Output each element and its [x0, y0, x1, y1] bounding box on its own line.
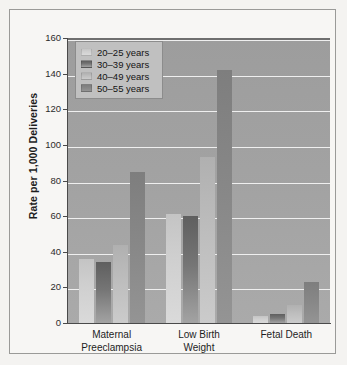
- y-tick-mark: [63, 252, 67, 253]
- y-tick-label: 160: [31, 32, 61, 43]
- chart-figure: Rate per 1,000 Deliveries 02040608010012…: [0, 0, 347, 365]
- y-tick-label: 40: [31, 246, 61, 257]
- chart-legend: 20–25 years30–39 years40–49 years50–55 y…: [75, 41, 163, 99]
- y-tick-label: 0: [31, 317, 61, 328]
- y-tick-mark: [63, 323, 67, 324]
- legend-label: 20–25 years: [97, 47, 149, 58]
- y-tick-mark: [63, 38, 67, 39]
- legend-item: 20–25 years: [81, 46, 157, 58]
- bar: [79, 259, 94, 323]
- legend-item: 30–39 years: [81, 58, 157, 70]
- bar: [183, 216, 198, 323]
- bar: [270, 314, 285, 323]
- legend-item: 40–49 years: [81, 70, 157, 82]
- bar: [130, 172, 145, 323]
- y-tick-mark: [63, 216, 67, 217]
- y-tick-label: 20: [31, 281, 61, 292]
- y-tick-label: 140: [31, 68, 61, 79]
- x-tick-label-line: Weight: [144, 341, 254, 354]
- y-tick-mark: [63, 145, 67, 146]
- bar: [287, 305, 302, 323]
- y-tick-label: 120: [31, 103, 61, 114]
- y-tick-mark: [63, 181, 67, 182]
- figure-frame: Rate per 1,000 Deliveries 02040608010012…: [9, 9, 336, 354]
- bar-group: [243, 38, 330, 323]
- legend-label: 50–55 years: [97, 83, 149, 94]
- y-tick-label: 80: [31, 175, 61, 186]
- legend-label: 40–49 years: [97, 71, 149, 82]
- legend-label: 30–39 years: [97, 59, 149, 70]
- bar: [200, 157, 215, 323]
- x-tick-label-line: Fetal Death: [231, 328, 341, 341]
- bar: [304, 282, 319, 323]
- bar: [217, 70, 232, 323]
- y-tick-mark: [63, 109, 67, 110]
- y-tick-mark: [63, 74, 67, 75]
- y-tick-label: 100: [31, 139, 61, 150]
- y-tick-mark: [63, 287, 67, 288]
- x-axis-line: [67, 323, 331, 324]
- legend-swatch-icon: [81, 48, 92, 56]
- legend-item: 50–55 years: [81, 82, 157, 94]
- legend-swatch-icon: [81, 72, 92, 80]
- x-tick-label: Fetal Death: [231, 328, 341, 341]
- legend-swatch-icon: [81, 84, 92, 92]
- y-tick-label: 60: [31, 210, 61, 221]
- y-axis-ticks: 020406080100120140160: [28, 38, 61, 324]
- bar: [96, 262, 111, 323]
- bar: [253, 316, 268, 323]
- bar: [113, 245, 128, 323]
- bar-group: [155, 38, 242, 323]
- legend-swatch-icon: [81, 60, 92, 68]
- bar: [166, 214, 181, 323]
